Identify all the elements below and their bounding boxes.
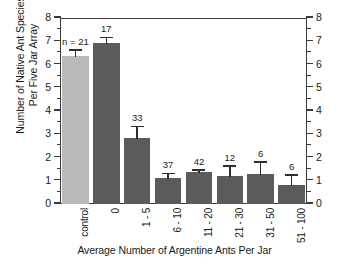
x-axis-tick-label: 51 - 100 — [296, 208, 307, 243]
bar-group: 42 — [186, 18, 212, 204]
error-bar — [136, 127, 137, 139]
bar-11-20[interactable] — [186, 172, 212, 204]
y-axis-tick-label-left: 5 — [29, 82, 51, 92]
y-axis-tick-right — [306, 63, 313, 64]
sample-size-label: 6 — [289, 161, 294, 172]
sample-size-label: 12 — [225, 152, 236, 163]
bar-group: 37 — [155, 18, 181, 204]
error-bar-cap — [162, 173, 175, 174]
chart-figure: Number of Native Ant Species Per Five Ja… — [0, 0, 349, 265]
y-axis-tick-label-right: 0 — [316, 198, 338, 208]
y-axis-tick-label-left: 6 — [29, 59, 51, 69]
y-axis-tick-label-right: 4 — [316, 105, 338, 115]
x-axis-tick-label: 21 - 30 — [234, 208, 245, 238]
sample-size-label: 37 — [163, 159, 174, 170]
bar-group: 17 — [93, 18, 119, 204]
error-bar-cap — [69, 49, 82, 50]
error-bar — [167, 174, 168, 179]
y-axis-tick-label-right: 5 — [316, 82, 338, 92]
x-axis-tick-label: 31 - 50 — [265, 208, 276, 238]
error-bar-cap — [192, 169, 205, 170]
y-axis-tick-label-right: 7 — [316, 35, 338, 45]
error-bar — [198, 171, 199, 173]
y-axis-tick-label-left: 1 — [29, 175, 51, 185]
x-axis-tick-label: 1 - 5 — [141, 208, 152, 227]
y-axis-tick-right — [306, 86, 313, 87]
y-axis-tick-label-right: 8 — [316, 12, 338, 22]
x-axis-tick-label: 11 - 20 — [203, 208, 214, 237]
y-axis-tick-label-left: 4 — [29, 105, 51, 115]
sample-size-label: n = 21 — [62, 36, 89, 47]
bar-31-50[interactable] — [247, 174, 273, 204]
sample-size-label: 33 — [132, 112, 143, 123]
x-axis-tick-label: 6 - 10 — [172, 208, 183, 232]
error-bar-cap — [100, 37, 113, 38]
bar-group: 12 — [217, 18, 243, 204]
y-axis-tick-label-left: 2 — [29, 152, 51, 162]
sample-size-label: 42 — [194, 156, 205, 167]
bar-1-5[interactable] — [124, 138, 150, 204]
y-axis-tick-right — [306, 16, 313, 17]
y-axis-tick-label-left: 0 — [29, 198, 51, 208]
y-axis-tick-label-left: 8 — [29, 12, 51, 22]
bar-group: 6 — [278, 18, 304, 204]
error-bar — [229, 167, 230, 177]
y-axis-tick-right — [306, 109, 313, 110]
bars-layer: n = 21173337421266 — [60, 18, 307, 204]
bar-21-30[interactable] — [217, 176, 243, 204]
y-axis-tick-label-right: 6 — [316, 59, 338, 69]
bar-group: 6 — [247, 18, 273, 204]
sample-size-label: 17 — [101, 23, 112, 34]
x-axis-tick-label: control — [79, 208, 90, 237]
y-axis-tick-label-right: 2 — [316, 152, 338, 162]
bar-group: n = 21 — [62, 18, 88, 204]
error-bar-cap — [285, 174, 298, 175]
y-axis-tick-label-right: 3 — [316, 128, 338, 138]
sample-size-label: 6 — [258, 148, 263, 159]
y-axis-tick-label-left: 7 — [29, 35, 51, 45]
error-bar-cap — [131, 126, 144, 127]
error-bar — [106, 38, 107, 44]
error-bar-cap — [223, 165, 236, 166]
y-axis-tick-right — [306, 202, 313, 203]
y-axis-tick-right — [306, 179, 313, 180]
error-bar-cap — [254, 161, 267, 162]
bar-group: 33 — [124, 18, 150, 204]
x-axis-tick-label: 0 — [110, 208, 121, 213]
y-axis-tick-right — [306, 133, 313, 134]
error-bar — [291, 176, 292, 186]
y-axis-tick-right — [306, 156, 313, 157]
y-axis-tick-label-left: 3 — [29, 128, 51, 138]
y-axis-tick-label-right: 1 — [316, 175, 338, 185]
bar-0[interactable] — [93, 43, 119, 204]
y-axis-tick-right — [306, 40, 313, 41]
error-bar — [260, 163, 261, 175]
bar-51-100[interactable] — [278, 185, 304, 204]
error-bar — [75, 51, 76, 57]
bar-6-10[interactable] — [155, 178, 181, 204]
bar-control[interactable] — [62, 56, 88, 204]
x-axis-title: Average Number of Argentine Ants Per Jar — [0, 244, 349, 256]
